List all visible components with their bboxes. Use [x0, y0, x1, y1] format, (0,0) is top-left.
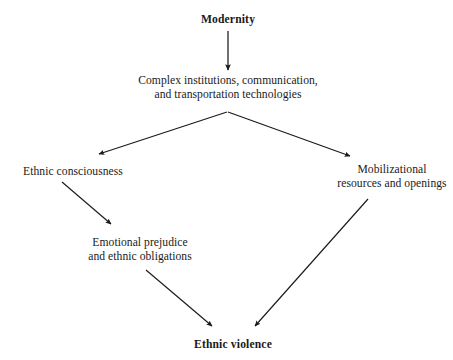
node-emotional-prejudice: Emotional prejudice and ethnic obligatio…	[88, 236, 192, 263]
node-ethnic-consciousness-line-1: Ethnic consciousness	[23, 165, 123, 179]
node-mobilizational-resources-line-2: resources and openings	[337, 177, 446, 191]
edge-complex-to-mobilizational	[228, 112, 350, 156]
node-emotional-prejudice-line-1: Emotional prejudice	[88, 236, 192, 250]
node-modernity-line-1: Modernity	[201, 13, 255, 27]
edge-mobilizational-to-ethnic-violence	[255, 199, 368, 326]
edge-emotional-to-ethnic-violence	[146, 270, 212, 326]
flow-diagram: Modernity Complex institutions, communic…	[0, 0, 453, 360]
node-ethnic-violence-line-1: Ethnic violence	[194, 338, 272, 352]
edge-complex-to-ethnic-consciousness	[99, 112, 227, 154]
node-emotional-prejudice-line-2: and ethnic obligations	[88, 250, 192, 264]
node-mobilizational-resources-line-1: Mobilizational	[337, 163, 446, 177]
node-mobilizational-resources: Mobilizational resources and openings	[337, 163, 446, 190]
node-ethnic-violence: Ethnic violence	[194, 338, 272, 352]
edge-ethnic-consciousness-to-emotional	[62, 182, 111, 224]
node-ethnic-consciousness: Ethnic consciousness	[23, 165, 123, 179]
node-complex-institutions-line-1: Complex institutions, communication,	[138, 74, 318, 88]
node-complex-institutions: Complex institutions, communication, and…	[138, 74, 318, 101]
node-modernity: Modernity	[201, 13, 255, 27]
node-complex-institutions-line-2: and transportation technologies	[138, 88, 318, 102]
